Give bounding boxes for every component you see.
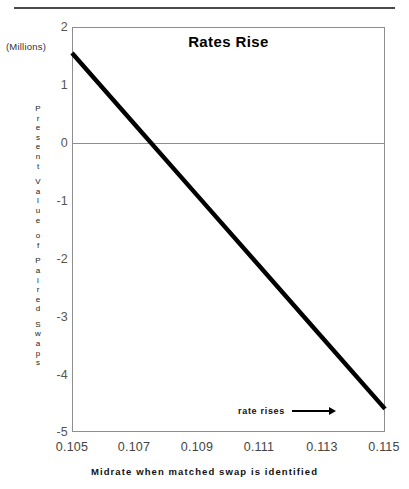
y-axis-title-letter: r bbox=[31, 285, 45, 295]
x-tick-label: 0.113 bbox=[292, 440, 352, 454]
x-tick-label: 0.105 bbox=[42, 440, 102, 454]
y-tick-label: 0 bbox=[44, 137, 68, 150]
y-axis-title-letter: o bbox=[31, 231, 45, 241]
y-tick-label: 2 bbox=[44, 21, 68, 34]
chart-title: Rates Rise bbox=[72, 33, 385, 50]
y-axis-title-letter: w bbox=[31, 329, 45, 339]
y-axis-title-letter: e bbox=[31, 123, 45, 133]
y-tick-label: -5 bbox=[44, 426, 68, 439]
x-axis-title: Midrate when matched swap is identified bbox=[0, 466, 409, 477]
y-tick-label: -4 bbox=[44, 369, 68, 382]
y-axis-title-letter: s bbox=[31, 358, 45, 368]
y-axis-title-letter: t bbox=[31, 162, 45, 172]
zero-reference-line bbox=[72, 143, 385, 144]
rate-rises-annotation: rate rises bbox=[238, 406, 336, 416]
y-axis-title-letter: a bbox=[31, 266, 45, 276]
x-tick-label: 0.109 bbox=[167, 440, 227, 454]
y-axis-title-letter: r bbox=[31, 114, 45, 124]
y-axis-title-letter: e bbox=[31, 216, 45, 226]
right-arrow-icon bbox=[292, 407, 336, 415]
y-axis-title-letter: f bbox=[31, 241, 45, 251]
y-axis-title-letter: n bbox=[31, 152, 45, 162]
plot-frame bbox=[72, 27, 385, 432]
y-axis-title-letter: S bbox=[31, 320, 45, 330]
y-axis-title-letter: i bbox=[31, 276, 45, 286]
y-tick-label: -1 bbox=[44, 195, 68, 208]
y-axis-title-letter: e bbox=[31, 295, 45, 305]
y-axis-title-letter: P bbox=[31, 256, 45, 266]
top-divider-rule bbox=[14, 7, 395, 9]
x-tick-label: 0.107 bbox=[104, 440, 164, 454]
y-axis-title-letter: d bbox=[31, 304, 45, 314]
y-axis-title-letter: p bbox=[31, 349, 45, 359]
chart-page: Rates Rise (Millions) 2 1 0 -1 -2 -3 -4 … bbox=[0, 0, 409, 489]
y-axis-title-letter: V bbox=[31, 177, 45, 187]
y-axis-title-letter: s bbox=[31, 133, 45, 143]
y-axis-title-letter: P bbox=[31, 104, 45, 114]
y-axis-title-letter: a bbox=[31, 339, 45, 349]
y-axis-title-letter: l bbox=[31, 196, 45, 206]
y-tick-label: -2 bbox=[44, 253, 68, 266]
y-axis-title-letter: u bbox=[31, 206, 45, 216]
y-axis-title-letter: e bbox=[31, 142, 45, 152]
x-tick-label: 0.111 bbox=[229, 440, 289, 454]
y-axis-unit-note: (Millions) bbox=[6, 41, 46, 52]
y-tick-label: 1 bbox=[44, 79, 68, 92]
y-tick-label: -3 bbox=[44, 311, 68, 324]
x-tick-label: 0.115 bbox=[354, 440, 409, 454]
y-axis-title-letter: a bbox=[31, 187, 45, 197]
y-axis-title: P r e s e n t V a l u e o f P a i r e d … bbox=[31, 104, 45, 368]
annotation-label: rate rises bbox=[238, 406, 285, 416]
